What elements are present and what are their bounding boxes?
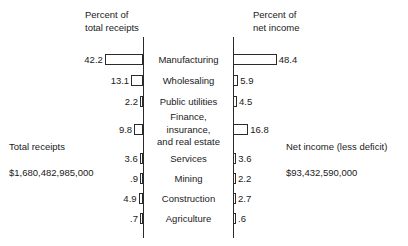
row-label: Wholesaling [145, 75, 232, 88]
row-label: Mining [145, 173, 232, 186]
bar-right [233, 173, 236, 184]
bar-value-right: 2.7 [238, 193, 251, 204]
left-axis-header: Percent of total receipts [85, 8, 139, 34]
row-label: Construction [145, 193, 232, 206]
total-receipts-label: Total receipts [9, 140, 94, 153]
bar-right [233, 124, 248, 135]
net-income-block: Net income (less deficit) $93,432,590,00… [286, 127, 387, 192]
row-label: Services [145, 153, 232, 166]
right-axis-header: Percent of net income [253, 8, 299, 34]
bar-left [131, 75, 143, 86]
bar-value-right: 5.9 [240, 75, 253, 86]
bar-left [134, 124, 143, 135]
total-receipts-value: $1,680,482,985,000 [9, 166, 94, 179]
bar-value-left: .9 [130, 173, 138, 184]
bar-left [140, 153, 143, 164]
bar-value-right: 48.4 [279, 54, 298, 65]
bar-value-left: 42.2 [84, 54, 103, 65]
row-label: Agriculture [145, 213, 232, 226]
bar-value-left: 4.9 [123, 193, 136, 204]
net-income-label: Net income (less deficit) [286, 140, 387, 153]
bar-right [233, 153, 236, 164]
row-label: Finance, insurance, and real estate [145, 111, 232, 149]
right-axis-line [233, 37, 234, 238]
bar-right [233, 213, 236, 224]
row-label: Public utilities [145, 96, 232, 109]
bar-value-right: .6 [238, 213, 246, 224]
bar-value-left: .7 [130, 213, 138, 224]
bar-right [233, 96, 237, 107]
bar-value-left: 3.6 [125, 153, 138, 164]
bar-right [233, 75, 238, 86]
bar-value-left: 13.1 [111, 75, 130, 86]
total-receipts-block: Total receipts $1,680,482,985,000 [9, 127, 94, 192]
bar-left [140, 173, 143, 184]
bar-right [233, 54, 277, 65]
bar-left [105, 54, 143, 65]
bar-value-right: 16.8 [250, 124, 269, 135]
bar-left [139, 193, 143, 204]
row-label: Manufacturing [145, 54, 232, 67]
bar-value-right: 4.5 [239, 96, 252, 107]
bar-value-right: 2.2 [238, 173, 251, 184]
bar-value-right: 3.6 [238, 153, 251, 164]
percent-comparison-chart: Percent of total receipts Percent of net… [0, 0, 408, 246]
left-axis-line [143, 37, 144, 238]
bar-right [233, 193, 236, 204]
bar-left [140, 213, 143, 224]
bar-value-left: 9.8 [119, 124, 132, 135]
bar-left [140, 96, 143, 107]
net-income-value: $93,432,590,000 [286, 166, 387, 179]
bar-value-left: 2.2 [125, 96, 138, 107]
